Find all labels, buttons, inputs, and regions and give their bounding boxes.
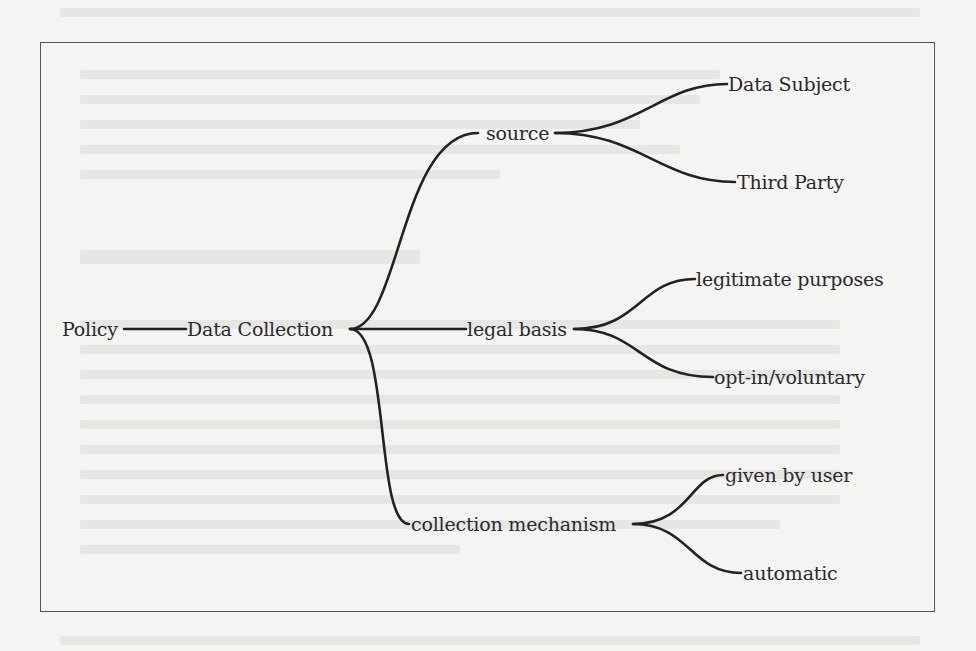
- edge-datacollection-collectionmechanism: [350, 329, 409, 524]
- node-policy: Policy: [62, 318, 118, 340]
- edge-mechanism-given: [633, 475, 723, 524]
- node-legal-basis: legal basis: [467, 318, 567, 340]
- edge-source-thirdparty: [555, 133, 735, 182]
- node-automatic: automatic: [743, 562, 838, 584]
- edge-mechanism-automatic: [633, 524, 741, 573]
- edge-legalbasis-legitimate: [574, 279, 695, 329]
- node-data-subject: Data Subject: [728, 73, 850, 95]
- edge-legalbasis-optin: [574, 329, 713, 377]
- node-legitimate-purposes: legitimate purposes: [696, 268, 884, 290]
- node-opt-in-voluntary: opt-in/voluntary: [714, 366, 865, 388]
- node-data-collection: Data Collection: [187, 318, 333, 340]
- edge-source-datasubject: [555, 84, 727, 133]
- node-collection-mechanism: collection mechanism: [411, 513, 616, 535]
- node-source: source: [486, 122, 549, 144]
- node-third-party: Third Party: [737, 171, 844, 193]
- edge-datacollection-source: [350, 133, 478, 329]
- node-given-by-user: given by user: [725, 464, 852, 486]
